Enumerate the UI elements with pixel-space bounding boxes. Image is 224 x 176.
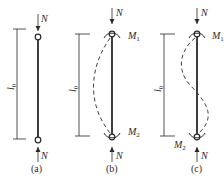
- panel-a: l0 N N (a): [5, 13, 49, 175]
- panel-b: l0 M1 M2 N N (b): [67, 7, 140, 175]
- hinge-bottom-c: [194, 134, 200, 140]
- length-label-c: l0: [152, 85, 165, 92]
- length-label-a: l0: [5, 83, 18, 90]
- moment-top-b: M1: [127, 30, 140, 43]
- panel-c: l0 M1 M2 N N (c): [152, 7, 224, 175]
- hinge-bottom-b: [109, 134, 115, 140]
- length-dimension-c: [160, 34, 175, 136]
- hinge-top-c: [194, 31, 200, 37]
- force-bottom-a: N: [40, 150, 49, 161]
- force-top-b: N: [115, 7, 124, 18]
- caption-a: (a): [31, 163, 42, 175]
- buckled-shape-c: [181, 38, 208, 133]
- force-bottom-b: N: [115, 150, 124, 161]
- length-dimension-b: [75, 34, 90, 136]
- moment-bottom-c: M2: [173, 139, 186, 152]
- hinge-top-b: [109, 31, 115, 37]
- buckled-shape-b: [94, 38, 111, 133]
- force-top-c: N: [200, 7, 209, 18]
- moment-bottom-b: M2: [127, 126, 140, 139]
- column-diagram: l0 N N (a) l0 M1 M2 N: [0, 0, 224, 176]
- caption-b: (b): [106, 163, 118, 175]
- force-top-a: N: [40, 13, 49, 24]
- moment-top-c: M1: [211, 30, 224, 43]
- length-label-b: l0: [67, 85, 80, 92]
- caption-c: (c): [191, 163, 202, 175]
- hinge-bottom-a: [35, 137, 41, 143]
- force-bottom-c: N: [200, 150, 209, 161]
- hinge-top-a: [35, 34, 41, 40]
